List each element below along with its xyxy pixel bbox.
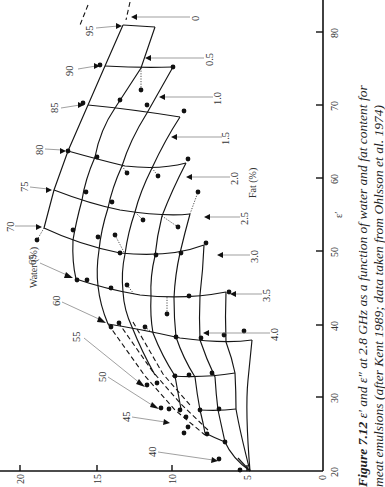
data-point — [159, 406, 164, 411]
x-tick-label: 50 — [329, 247, 340, 257]
data-point — [85, 278, 90, 283]
pointer-line — [40, 263, 69, 276]
pointer-line — [108, 377, 155, 407]
arrowhead-icon — [203, 330, 209, 336]
x-tick-label: 70 — [329, 101, 340, 111]
pointer-line — [30, 187, 48, 189]
y-tick-label: 20 — [15, 474, 26, 484]
data-point — [182, 431, 187, 436]
fat-label-0: 0 — [190, 16, 201, 21]
arrowhead-icon — [171, 134, 177, 140]
iso-fat-1.0 — [97, 67, 173, 324]
dashed-line-top — [80, 5, 88, 25]
data-point — [156, 174, 161, 179]
arrowhead-icon — [131, 14, 137, 20]
fat-label-3.5: 3.5 — [261, 289, 272, 302]
data-point — [204, 241, 209, 246]
iso-fat-2.0 — [151, 163, 186, 409]
arrowhead-icon — [163, 419, 170, 425]
caption-text-1: ε′ and ε″ at 2.8 GHz as a function of wa… — [355, 85, 370, 422]
iso-fat-3.5 — [226, 292, 251, 471]
data-point — [173, 374, 178, 379]
pointer-line — [78, 66, 96, 69]
arrowhead-icon — [217, 252, 223, 258]
pointer-line — [96, 26, 118, 28]
epsilon-prime-axis: 20 30 40 50 60 70 80 ε′ — [316, 0, 344, 477]
x-tick-label: 80 — [329, 28, 340, 38]
data-point — [71, 228, 76, 233]
iso-fat-3.0 — [200, 245, 251, 471]
link — [190, 192, 198, 214]
data-point — [176, 225, 181, 230]
iso-fat-0.5 — [73, 27, 155, 279]
arrowhead-icon — [60, 148, 66, 154]
data-point — [187, 294, 192, 299]
water-label-50: 50 — [97, 372, 108, 383]
fat-label-2.5: 2.5 — [239, 212, 250, 225]
data-point — [238, 468, 243, 473]
x-tick-label: 30 — [329, 393, 340, 403]
data-point — [199, 336, 204, 341]
iso-water-55 — [172, 373, 235, 377]
data-point — [179, 251, 184, 256]
pointer-line — [158, 452, 213, 460]
data-point — [95, 155, 100, 160]
arrowhead-icon — [36, 224, 42, 230]
y-tick-label: 0 — [317, 475, 328, 480]
fat-label-1.0: 1.0 — [212, 92, 223, 105]
dielectric-chart: 20 15 10 5 0 20 30 40 50 60 70 80 ε′ — [0, 0, 385, 487]
arrowhead-icon — [145, 55, 151, 61]
iso-water-70 — [44, 228, 204, 254]
data-point — [171, 65, 176, 70]
water-label-40: 40 — [147, 447, 158, 458]
epsilon-double-prime-axis: 20 15 10 5 0 — [0, 465, 328, 484]
x-tick-label: 60 — [329, 174, 340, 184]
data-point — [217, 407, 222, 412]
data-point — [66, 149, 71, 154]
iso-water-80 — [68, 151, 186, 167]
water-label-75: 75 — [19, 182, 30, 193]
water-label-45: 45 — [121, 412, 132, 423]
link — [162, 216, 178, 227]
data-point — [205, 432, 210, 437]
data-point — [75, 278, 80, 283]
data-point — [167, 407, 172, 412]
data-point — [187, 373, 192, 378]
data-point — [178, 408, 183, 413]
data-point — [110, 200, 115, 205]
link — [152, 168, 158, 176]
pointer-line — [45, 149, 62, 150]
data-point — [155, 381, 160, 386]
caption-label: Figure 7.12 — [355, 421, 370, 487]
iso-water-95 — [123, 25, 155, 27]
y-tick-label: 5 — [242, 475, 253, 480]
caption-line-1: Figure 7.12 ε′ and ε″ at 2.8 GHz as a fu… — [355, 85, 370, 487]
data-point — [154, 253, 159, 258]
water-label-85: 85 — [49, 103, 60, 114]
iso-water-85 — [88, 105, 180, 117]
water-label-80: 80 — [34, 145, 45, 156]
arrowhead-icon — [46, 187, 52, 193]
data-point — [182, 109, 187, 114]
data-point — [118, 251, 123, 256]
water-labels: 95 90 85 80 75 70 65 60 55 50 45 40 — [5, 23, 218, 463]
water-axis-title: Water (%) — [28, 247, 40, 288]
x-axis-title: ε′ — [333, 212, 344, 218]
fat-label-3.0: 3.0 — [249, 250, 260, 263]
fat-labels: 0 0.5 1.0 1.5 2.0 Fat (%) 2.5 3.0 3.5 4.… — [131, 14, 280, 341]
fat-label-2.0: 2.0 — [229, 172, 240, 185]
y-tick-label: 15 — [92, 474, 103, 484]
data-point — [186, 425, 191, 430]
x-tick-label: 40 — [329, 321, 340, 331]
data-point — [174, 335, 179, 340]
water-label-55: 55 — [71, 332, 82, 343]
water-label-90: 90 — [64, 66, 75, 77]
data-point — [145, 383, 150, 388]
data-point — [184, 415, 189, 420]
iso-fat-0 — [44, 25, 123, 228]
arrowhead-icon — [186, 174, 192, 180]
data-point — [84, 190, 89, 195]
data-point — [223, 440, 228, 445]
dashed-line-fat0-ext — [126, 2, 130, 20]
fat-label-0.5: 0.5 — [204, 53, 215, 66]
